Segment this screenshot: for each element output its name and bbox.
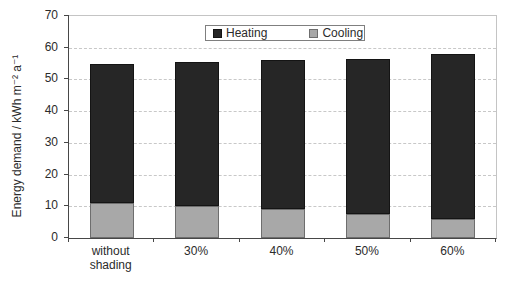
x-tick-mark-2 (239, 238, 240, 242)
legend-label-heating: Heating (226, 27, 267, 39)
bar-heating-4 (346, 59, 390, 214)
x-tick-mark-4 (410, 238, 411, 242)
legend-item-heating: Heating (213, 27, 267, 39)
y-tick-mark-70 (64, 15, 69, 16)
x-tick-mark-3 (324, 238, 325, 242)
x-label-4: 50% (335, 244, 399, 258)
cooling-swatch-icon (309, 29, 318, 38)
bar-cooling-5 (431, 219, 475, 238)
plot-area (68, 15, 497, 239)
bar-heating-2 (175, 62, 219, 206)
x-tick-mark-5 (495, 238, 496, 242)
bar-heating-3 (261, 60, 305, 209)
y-tick-label-10: 10 (0, 198, 58, 212)
gridline-60 (69, 48, 496, 49)
x-label-2: 30% (164, 244, 228, 258)
y-tick-label-60: 60 (0, 40, 58, 54)
bar-heating-5 (431, 54, 475, 219)
y-tick-label-40: 40 (0, 103, 58, 117)
legend-item-cooling: Cooling (309, 27, 363, 39)
bar-cooling-4 (346, 214, 390, 238)
y-tick-mark-10 (64, 205, 69, 206)
y-tick-label-70: 70 (0, 8, 58, 22)
x-tick-mark-1 (153, 238, 154, 242)
y-tick-label-0: 0 (0, 230, 58, 244)
y-tick-mark-30 (64, 142, 69, 143)
bar-cooling-1 (90, 203, 134, 238)
y-tick-label-50: 50 (0, 71, 58, 85)
bar-heating-1 (90, 64, 134, 204)
bar-cooling-2 (175, 206, 219, 238)
y-tick-mark-50 (64, 78, 69, 79)
x-label-3: 40% (250, 244, 314, 258)
x-label-1: without shading (79, 244, 143, 272)
y-tick-mark-40 (64, 110, 69, 111)
bar-cooling-3 (261, 209, 305, 238)
heating-swatch-icon (213, 29, 222, 38)
y-tick-label-30: 30 (0, 135, 58, 149)
x-label-5: 60% (420, 244, 484, 258)
legend-label-cooling: Cooling (322, 27, 363, 39)
x-tick-mark-0 (68, 238, 69, 242)
y-tick-mark-20 (64, 174, 69, 175)
energy-demand-chart: Energy demand / kWh m⁻² a⁻¹ 010203040506… (0, 0, 518, 283)
y-tick-mark-60 (64, 47, 69, 48)
y-tick-label-20: 20 (0, 167, 58, 181)
legend: Heating Cooling (205, 25, 365, 41)
